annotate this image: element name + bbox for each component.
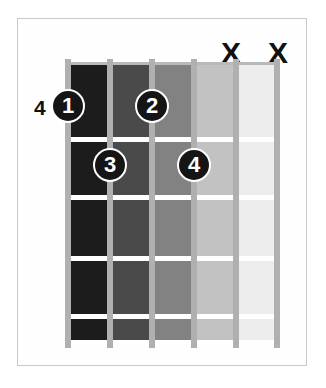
finger-dot-4: 4 — [177, 148, 211, 182]
fret-position-label: 4 — [34, 96, 46, 120]
string-5 — [233, 59, 239, 348]
string-2 — [107, 59, 113, 348]
fret-line-3 — [65, 256, 280, 261]
finger-dot-1: 1 — [51, 89, 85, 123]
fretboard-cell-4 — [193, 62, 235, 345]
fret-line-5 — [65, 340, 280, 345]
finger-dot-3: 3 — [93, 148, 127, 182]
fret-line-2 — [65, 195, 280, 200]
fret-line-4 — [65, 314, 280, 319]
string-6 — [274, 59, 280, 348]
fret-line-1 — [65, 137, 280, 142]
fretboard-nut — [65, 62, 280, 65]
string-4 — [191, 59, 197, 348]
chord-diagram-canvas: 4 X X 1 2 3 4 — [0, 0, 326, 388]
fretboard: 1 2 3 4 — [65, 62, 280, 345]
finger-dot-2: 2 — [135, 89, 169, 123]
